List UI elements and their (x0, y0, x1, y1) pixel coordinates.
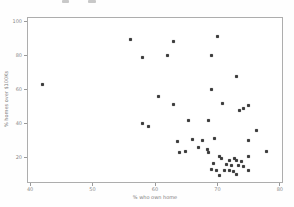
data-point (247, 169, 250, 172)
data-point (235, 173, 238, 176)
x-tick-label: 80 (274, 187, 286, 192)
y-tick-mark (24, 89, 27, 90)
y-tick-mark (24, 55, 27, 56)
data-point (207, 119, 210, 122)
data-point (210, 168, 213, 171)
y-tick-label: 60 (10, 87, 22, 92)
data-point (166, 54, 169, 57)
x-tick-label: 60 (149, 187, 161, 192)
data-point (235, 75, 238, 78)
data-point (157, 95, 160, 98)
y-tick-label: 20 (10, 155, 22, 160)
data-point (228, 159, 231, 162)
data-point (197, 146, 200, 149)
x-axis-label: % who own home (27, 194, 283, 200)
data-point (187, 119, 190, 122)
y-tick-label: 100 (10, 19, 22, 24)
data-point (221, 102, 224, 105)
y-tick-mark (24, 157, 27, 158)
data-point (201, 139, 204, 142)
y-tick-label: 80 (10, 53, 22, 58)
data-point (191, 138, 194, 141)
data-point (237, 164, 240, 167)
data-point (176, 140, 179, 143)
y-tick-label: 40 (10, 121, 22, 126)
y-tick-mark (24, 123, 27, 124)
data-point (247, 139, 250, 142)
x-tick-label: 70 (211, 187, 223, 192)
cropped-text-fragment (62, 0, 69, 3)
data-point (247, 155, 250, 158)
data-point (210, 88, 213, 91)
plot-figure: % homes over $100Ks % who own home 40506… (0, 0, 294, 207)
data-point (216, 35, 219, 38)
cropped-text-fragment (88, 0, 96, 3)
data-point (210, 54, 213, 57)
x-tick-label: 50 (87, 187, 99, 192)
data-point (255, 129, 258, 132)
data-point (212, 162, 215, 165)
data-point (184, 150, 187, 153)
data-point (247, 104, 250, 107)
y-axis-label: % homes over $100Ks (3, 19, 9, 179)
data-point (218, 174, 221, 177)
data-point (242, 165, 245, 168)
y-tick-mark (24, 21, 27, 22)
data-point (240, 160, 243, 163)
plot-area (27, 17, 283, 183)
data-point (141, 122, 144, 125)
x-tick-label: 40 (24, 187, 36, 192)
data-point (265, 150, 268, 153)
data-point (207, 151, 210, 154)
data-point (228, 169, 231, 172)
data-point (141, 56, 144, 59)
data-point (41, 83, 44, 86)
